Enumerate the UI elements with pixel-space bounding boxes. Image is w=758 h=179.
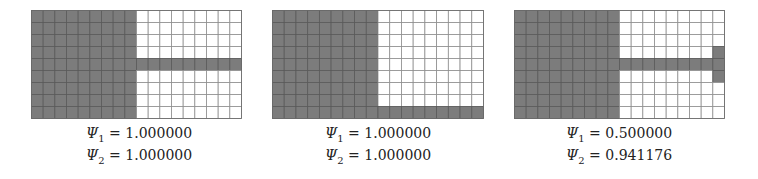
grid-cell-filled bbox=[608, 35, 620, 47]
psi1-value: 1.000000 bbox=[125, 125, 192, 141]
grid-cell-empty bbox=[172, 71, 184, 83]
grid-cell-filled bbox=[102, 47, 114, 59]
grid-cell-empty bbox=[195, 71, 207, 83]
grid-cell-filled bbox=[67, 71, 79, 83]
grid-cell-empty bbox=[678, 35, 690, 47]
grid-cell-filled bbox=[713, 47, 725, 59]
grid-cell-empty bbox=[390, 71, 402, 83]
grid-cell-empty bbox=[655, 11, 667, 23]
grid-cell-filled bbox=[596, 11, 608, 23]
grid-cell-empty bbox=[643, 83, 655, 95]
grid-cell-filled bbox=[538, 23, 550, 35]
grid-cell-empty bbox=[472, 95, 484, 107]
grid-cell-filled bbox=[608, 95, 620, 107]
grid-cell-empty bbox=[207, 11, 219, 23]
grid-cell-filled bbox=[573, 95, 585, 107]
grid-panel-3 bbox=[514, 10, 725, 119]
grid-cell-filled bbox=[331, 11, 343, 23]
grid-cell-empty bbox=[425, 59, 437, 71]
grid-cell-filled bbox=[284, 71, 296, 83]
grid-cell-empty bbox=[631, 47, 643, 59]
grid-cell-filled bbox=[125, 95, 137, 107]
grid-cell-empty bbox=[137, 47, 149, 59]
grid-cell-empty bbox=[655, 107, 667, 119]
grid-cell-empty bbox=[666, 23, 678, 35]
grid-cell-empty bbox=[183, 47, 195, 59]
grid-cell-filled bbox=[55, 83, 67, 95]
grid-cell-filled bbox=[102, 95, 114, 107]
grid-cell-empty bbox=[160, 47, 172, 59]
grid-cell-filled bbox=[102, 23, 114, 35]
grid-cell-empty bbox=[713, 83, 725, 95]
grid-cell-filled bbox=[608, 107, 620, 119]
grid-cell-filled bbox=[67, 107, 79, 119]
grid-cell-filled bbox=[55, 95, 67, 107]
grid-cell-empty bbox=[378, 95, 390, 107]
grid-cell-empty bbox=[437, 83, 449, 95]
grid-cell-empty bbox=[230, 47, 242, 59]
grid-cell-filled bbox=[78, 107, 90, 119]
grid-cell-empty bbox=[666, 83, 678, 95]
grid-cell-empty bbox=[701, 95, 713, 107]
grid-cell-empty bbox=[631, 23, 643, 35]
grid-cell-filled bbox=[355, 107, 367, 119]
grid-cell-filled bbox=[90, 47, 102, 59]
grid-cell-filled bbox=[550, 83, 562, 95]
grid-cell-filled bbox=[331, 71, 343, 83]
grid-cell-filled bbox=[308, 11, 320, 23]
psi1-label: Ψ1 = 1.000000 bbox=[86, 125, 192, 147]
grid-cell-empty bbox=[620, 95, 632, 107]
grid-cell-filled bbox=[90, 35, 102, 47]
grid-cell-filled bbox=[366, 83, 378, 95]
grid-cell-filled bbox=[113, 83, 125, 95]
psi2-value: 1.000000 bbox=[125, 147, 192, 163]
grid-cell-empty bbox=[472, 71, 484, 83]
grid-cell-empty bbox=[218, 107, 230, 119]
grid-cell-empty bbox=[390, 23, 402, 35]
grid-cell-filled bbox=[515, 71, 527, 83]
grid-cell-empty bbox=[401, 35, 413, 47]
grid-cell-empty bbox=[137, 71, 149, 83]
grid-panel-2 bbox=[272, 10, 484, 119]
grid-cell-filled bbox=[67, 47, 79, 59]
psi1-label: Ψ1 = 1.000000 bbox=[325, 125, 431, 147]
grid-cell-filled bbox=[319, 107, 331, 119]
grid-cell-empty bbox=[207, 47, 219, 59]
grid-cell-empty bbox=[655, 35, 667, 47]
grid-cell-filled bbox=[308, 59, 320, 71]
grid-cell-filled bbox=[573, 59, 585, 71]
grid-cell-filled bbox=[32, 71, 44, 83]
grid-cell-filled bbox=[319, 11, 331, 23]
grid-cell-empty bbox=[148, 11, 160, 23]
grid-cell-filled bbox=[308, 23, 320, 35]
grid-cell-empty bbox=[413, 23, 425, 35]
grid-cell-empty bbox=[713, 23, 725, 35]
grid-cell-filled bbox=[573, 23, 585, 35]
grid-cell-filled bbox=[125, 35, 137, 47]
grid-cell-empty bbox=[160, 83, 172, 95]
grid-cell-empty bbox=[401, 11, 413, 23]
grid-cell-filled bbox=[319, 83, 331, 95]
grid-cell-empty bbox=[172, 35, 184, 47]
grid-cell-empty bbox=[172, 95, 184, 107]
grid-cell-empty bbox=[666, 11, 678, 23]
psi1-label: Ψ1 = 0.500000 bbox=[566, 125, 672, 147]
grid-cell-filled bbox=[366, 107, 378, 119]
grid-cell-empty bbox=[620, 107, 632, 119]
grid-cell-filled bbox=[90, 95, 102, 107]
grid-cell-filled bbox=[78, 59, 90, 71]
grid-cell-filled bbox=[113, 23, 125, 35]
grid-cell-filled bbox=[67, 95, 79, 107]
grid-cell-filled bbox=[43, 95, 55, 107]
grid-cell-empty bbox=[160, 107, 172, 119]
grid-cell-empty bbox=[183, 11, 195, 23]
grid-cell-filled bbox=[425, 107, 437, 119]
grid-cell-empty bbox=[460, 23, 472, 35]
grid-cell-filled bbox=[284, 107, 296, 119]
grid-cell-filled bbox=[113, 35, 125, 47]
grid-cell-filled bbox=[608, 47, 620, 59]
grid-cell-filled bbox=[596, 35, 608, 47]
grid-cell-filled bbox=[472, 107, 484, 119]
grid-cell-filled bbox=[113, 59, 125, 71]
grid-cell-empty bbox=[690, 71, 702, 83]
